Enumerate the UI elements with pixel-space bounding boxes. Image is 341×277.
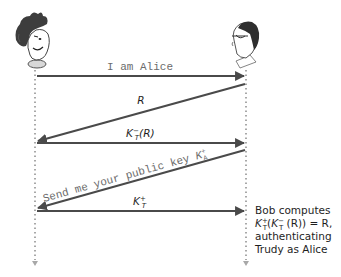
note-line-4: Trudy as Alice	[255, 243, 332, 256]
message-label-4: Send me your public key K+A	[41, 147, 209, 207]
note-line-3: authenticating	[255, 230, 332, 243]
note-line-2: K+T(K−T (R)) = R,	[255, 217, 332, 230]
message-label-1: I am Alice	[107, 61, 173, 73]
bob-computation-note: Bob computes K+T(K−T (R)) = R, authentic…	[255, 204, 332, 256]
message-label-5: K+T	[133, 195, 147, 210]
message-label-3: K−T(R)	[126, 127, 155, 142]
bob-icon	[232, 22, 259, 68]
trudy-icon	[16, 12, 50, 68]
note-line-1: Bob computes	[255, 204, 332, 217]
trudy-timeline-end-icon	[32, 261, 38, 266]
bob-timeline-end-icon	[243, 261, 249, 266]
authentication-sequence-diagram: I am Alice R K−T(R) Send me your public …	[0, 0, 341, 277]
message-label-2: R	[137, 94, 144, 106]
